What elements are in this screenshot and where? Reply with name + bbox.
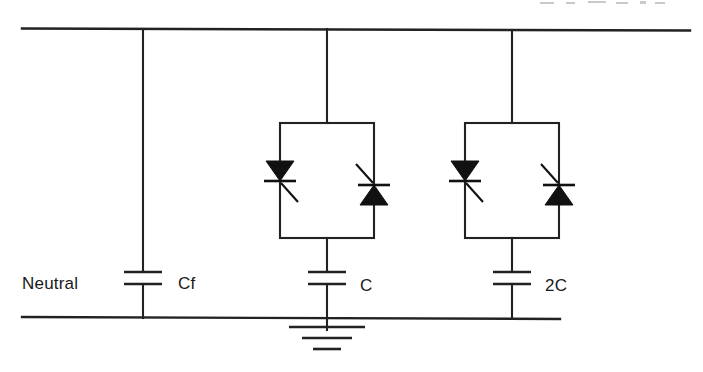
branch-2c (449, 30, 575, 318)
bottom-bus-line (22, 317, 560, 319)
circuit-diagram: Neutral Cf C 2C (0, 0, 703, 372)
schematic-canvas: Neutral Cf C 2C (0, 0, 703, 372)
capacitor-2c (493, 272, 531, 284)
capacitor-c (308, 272, 346, 284)
label-neutral: Neutral (22, 274, 78, 293)
capacitor-cf (124, 272, 162, 284)
ground-symbol (289, 318, 365, 349)
branch-c (264, 29, 390, 318)
label-cf: Cf (178, 274, 195, 293)
top-bus-line (22, 29, 690, 31)
label-c: C (360, 276, 372, 295)
branch-cf (124, 29, 162, 318)
label-2c: 2C (545, 276, 567, 295)
scan-artifacts (540, 1, 665, 4)
